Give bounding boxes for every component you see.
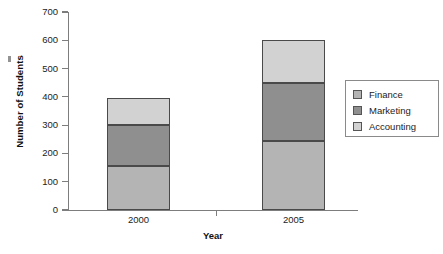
bar-segment-2005-finance <box>262 141 325 210</box>
bar-segment-2005-marketing <box>262 83 325 141</box>
legend-swatch-finance <box>353 90 362 99</box>
legend-item-finance: Finance <box>353 86 438 102</box>
y-tick-label-700: 700 <box>0 6 58 17</box>
y-tick-400 <box>62 96 68 97</box>
bar-segment-2000-finance <box>107 166 170 210</box>
y-tick-500 <box>62 68 68 69</box>
bar-segment-2000-accounting <box>107 98 170 125</box>
x-tick-label-2000: 2000 <box>104 214 174 225</box>
legend-label-marketing: Marketing <box>369 105 411 116</box>
y-tick-label-300: 300 <box>0 119 58 130</box>
legend-swatch-marketing <box>353 106 362 115</box>
legend-swatch-accounting <box>353 122 362 131</box>
y-tick-0 <box>62 209 68 210</box>
stacked-bar-chart: Number of Students Year 0100200300400500… <box>0 0 443 254</box>
y-tick-300 <box>62 125 68 126</box>
y-tick-label-0: 0 <box>0 204 58 215</box>
legend-label-finance: Finance <box>369 89 403 100</box>
y-tick-label-500: 500 <box>0 63 58 74</box>
y-tick-600 <box>62 40 68 41</box>
bar-segment-2000-marketing <box>107 125 170 166</box>
y-tick-label-200: 200 <box>0 147 58 158</box>
legend-label-accounting: Accounting <box>369 121 416 132</box>
x-tick-mid <box>216 210 217 216</box>
y-axis-line <box>68 12 69 211</box>
legend: Finance Marketing Accounting <box>345 80 439 137</box>
image-artifact-speck <box>8 56 11 62</box>
y-tick-label-600: 600 <box>0 34 58 45</box>
y-tick-label-100: 100 <box>0 176 58 187</box>
y-tick-700 <box>62 11 68 12</box>
y-tick-200 <box>62 153 68 154</box>
y-tick-100 <box>62 181 68 182</box>
bar-segment-2005-accounting <box>262 40 325 82</box>
x-tick-label-2005: 2005 <box>259 214 329 225</box>
legend-item-accounting: Accounting <box>353 118 438 134</box>
y-tick-label-400: 400 <box>0 91 58 102</box>
x-axis-title: Year <box>68 230 358 241</box>
legend-item-marketing: Marketing <box>353 102 438 118</box>
